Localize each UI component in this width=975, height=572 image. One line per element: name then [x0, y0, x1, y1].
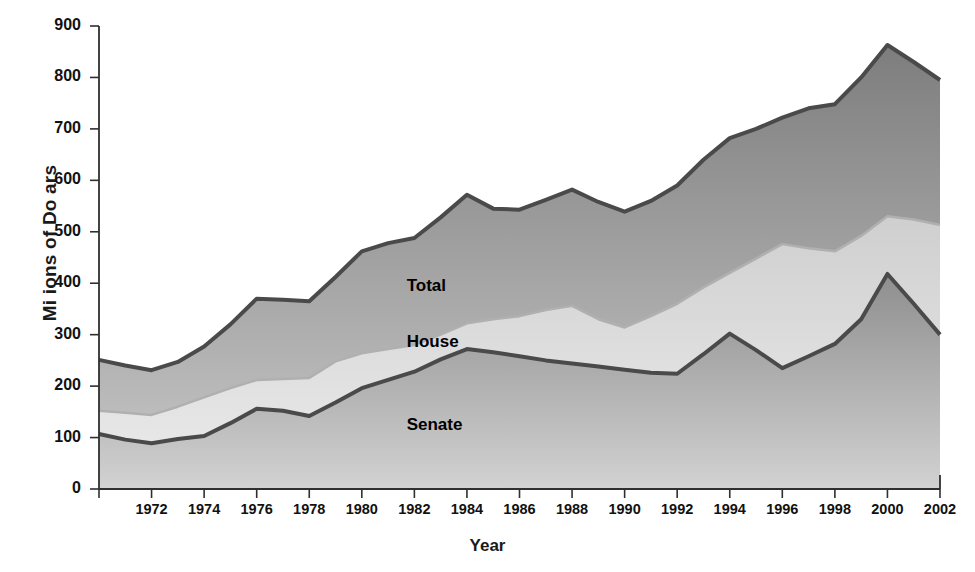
x-tick-label: 1994 [700, 501, 760, 517]
x-tick-label: 1990 [595, 501, 655, 517]
y-tick-label: 900 [29, 16, 81, 34]
x-tick-label: 1974 [174, 501, 234, 517]
x-tick-label: 1988 [542, 501, 602, 517]
x-tick-label: 1978 [279, 501, 339, 517]
y-tick-label: 600 [29, 170, 81, 188]
y-tick-label: 400 [29, 273, 81, 291]
chart-plot-area [0, 0, 975, 572]
x-tick-label: 1972 [122, 501, 182, 517]
x-tick-label: 1998 [805, 501, 865, 517]
series-label-total: Total [407, 276, 446, 296]
x-tick-label: 1986 [490, 501, 550, 517]
y-tick-label: 700 [29, 119, 81, 137]
chart-areas [99, 45, 940, 489]
y-tick-label: 100 [29, 428, 81, 446]
x-tick-label: 1982 [384, 501, 444, 517]
chart-figure: Mi ions of Do ars Year 01002003004005006… [0, 0, 975, 572]
y-tick-label: 0 [29, 479, 81, 497]
x-axis-title: Year [0, 536, 975, 556]
x-tick-label: 1980 [332, 501, 392, 517]
x-tick-label: 1992 [647, 501, 707, 517]
cut-off-caption [60, 566, 560, 572]
y-tick-label: 300 [29, 325, 81, 343]
x-tick-label: 1996 [752, 501, 812, 517]
x-tick-label: 1984 [437, 501, 497, 517]
x-tick-label: 1976 [227, 501, 287, 517]
series-label-house: House [407, 332, 459, 352]
y-tick-label: 800 [29, 67, 81, 85]
x-tick-label: 2002 [910, 501, 970, 517]
y-tick-label: 200 [29, 376, 81, 394]
series-label-senate: Senate [407, 415, 463, 435]
x-tick-label: 2000 [857, 501, 917, 517]
y-tick-label: 500 [29, 222, 81, 240]
